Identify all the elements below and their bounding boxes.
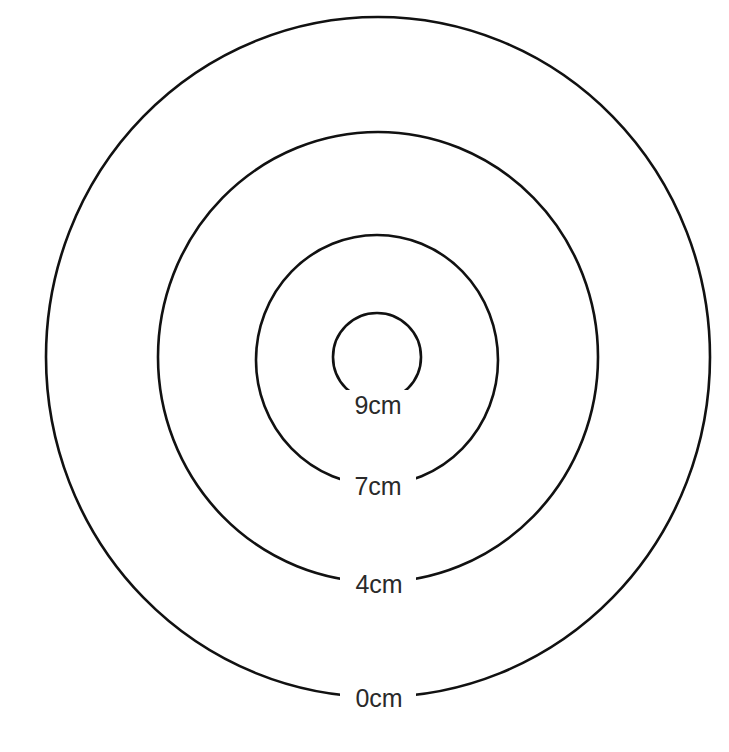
ring-label-4cm: 4cm [355, 570, 402, 598]
ring-label-0cm: 0cm [355, 684, 402, 712]
ring-outline-7cm [256, 235, 498, 485]
ring-label-9cm: 9cm [354, 391, 401, 419]
ring-label-7cm: 7cm [354, 472, 401, 500]
ring-0cm: 0cm [46, 17, 710, 713]
contour-ring-diagram: 0cm 4cm 7cm 9cm [0, 0, 729, 752]
ring-7cm: 7cm [256, 235, 498, 501]
ring-4cm: 4cm [158, 132, 598, 599]
ring-outline-9cm [333, 313, 421, 401]
ring-outline-4cm [158, 132, 598, 582]
ring-9cm: 9cm [333, 313, 421, 420]
